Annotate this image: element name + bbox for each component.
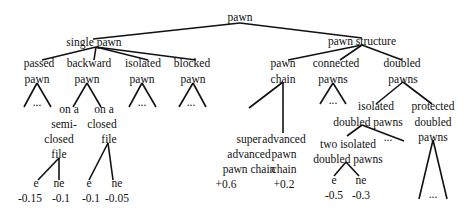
- label-line: two isolated: [320, 138, 376, 150]
- node-passed-pawn: passed pawn: [24, 57, 55, 86]
- leaf-two-ne: ne -0.3: [352, 174, 370, 201]
- label-line: advanced: [262, 133, 306, 145]
- label-line: isolated: [125, 57, 161, 69]
- node-isolated-pawn: isolated pawn: [125, 57, 161, 86]
- label-line: backward: [67, 57, 112, 69]
- score: -0.15: [18, 192, 42, 204]
- node-blocked-pawn: blocked pawn: [174, 57, 211, 86]
- label-line: pawns: [318, 73, 348, 86]
- node-isolated-doubled: isolated doubled pawns: [333, 100, 403, 129]
- leaf-closed-e: e -0.1: [82, 177, 100, 204]
- label-line: super: [237, 133, 262, 146]
- node-root: pawn: [228, 11, 253, 24]
- direction: e: [86, 177, 91, 189]
- score: -0.5: [325, 189, 343, 201]
- label-line: closed: [87, 118, 117, 130]
- label-line: doubled pawns: [313, 153, 383, 166]
- leaf-closed-ne: ne -0.05: [105, 177, 129, 204]
- label-line: pawn: [25, 73, 50, 86]
- label-line: pawn: [271, 57, 296, 70]
- label-line: isolated: [358, 100, 394, 112]
- label-line: file: [51, 148, 66, 160]
- tree-canvas: pawn single pawn pawn structure passed p…: [0, 0, 473, 217]
- node-protected-doubled: protected doubled pawns: [412, 100, 455, 144]
- node-connected-pawns: connected pawns: [313, 57, 360, 86]
- label-line: doubled: [383, 57, 420, 69]
- label-line: on a: [59, 103, 78, 115]
- node-closed-file: on a closed file: [87, 103, 117, 145]
- node-backward-pawn: backward pawn: [67, 57, 112, 86]
- score: -0.3: [352, 189, 370, 201]
- direction: e: [33, 177, 38, 189]
- direction: e: [331, 174, 336, 186]
- label-line: connected: [313, 57, 360, 69]
- label-line: chain: [271, 73, 296, 85]
- label-line: on a: [94, 103, 113, 115]
- node-pawn-structure: pawn structure: [328, 35, 396, 48]
- node-semi-closed-file: on a semi- closed file: [44, 103, 78, 160]
- label-line: file: [101, 133, 116, 145]
- label-line: doubled: [414, 116, 451, 128]
- node-single-pawn: single pawn: [66, 36, 122, 49]
- score: +0.2: [274, 178, 295, 190]
- direction: ne: [54, 177, 65, 189]
- score: -0.1: [82, 192, 100, 204]
- ellipsis-protected: ...: [429, 188, 438, 200]
- label-line: protected: [412, 100, 455, 113]
- label-line: pawn chain: [223, 163, 276, 176]
- label-line: pawns: [418, 131, 448, 144]
- label-line: semi-: [51, 118, 77, 130]
- direction: ne: [112, 177, 123, 189]
- pawn-feature-tree: pawn single pawn pawn structure passed p…: [0, 0, 473, 217]
- label-line: pawn: [75, 73, 100, 86]
- leaf-semi-e: e -0.15: [18, 177, 42, 204]
- ellipsis-isolated-doubled: ...: [384, 131, 393, 143]
- leaf-semi-ne: ne -0.1: [52, 177, 70, 204]
- node-doubled-pawns: doubled pawns: [383, 57, 420, 86]
- label-line: pawn: [130, 73, 155, 86]
- ellipsis-connected: ...: [329, 94, 338, 106]
- direction: ne: [356, 174, 367, 186]
- score: -0.1: [52, 192, 70, 204]
- leaf-two-e: e -0.5: [325, 174, 343, 201]
- label-line: blocked: [174, 57, 211, 69]
- ellipsis-isolated: ...: [138, 96, 147, 108]
- score: -0.05: [105, 192, 129, 204]
- ellipsis-blocked: ...: [187, 96, 196, 108]
- label-line: pawn: [181, 73, 206, 86]
- node-two-isolated: two isolated doubled pawns: [313, 138, 383, 166]
- label-line: pawns: [388, 73, 418, 86]
- label-line: doubled pawns: [333, 116, 403, 129]
- node-pawn-chain: pawn chain: [271, 57, 296, 85]
- score: +0.6: [216, 178, 237, 190]
- label-line: chain: [272, 163, 297, 175]
- label-line: passed: [24, 57, 55, 70]
- ellipsis-passed: ...: [33, 96, 42, 108]
- node-advanced: advanced pawn chain +0.2: [262, 133, 306, 190]
- label-line: closed: [44, 133, 74, 145]
- label-line: pawn: [272, 148, 297, 161]
- node-labels: pawn single pawn pawn structure passed p…: [18, 11, 455, 204]
- label-line: advanced: [227, 148, 271, 160]
